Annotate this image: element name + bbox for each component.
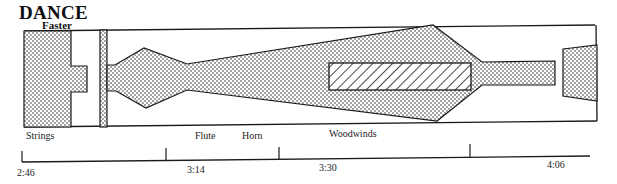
final-block: [563, 45, 597, 101]
woodwinds-block: [329, 63, 471, 90]
time-tick-label: 2:46: [17, 168, 35, 178]
divider-bar: [100, 30, 107, 127]
strings-block: [24, 31, 87, 127]
time-tick-label: 3:30: [319, 163, 337, 173]
instrument-label-woodwinds: Woodwinds: [329, 129, 377, 139]
music-form-diagram: [0, 0, 617, 184]
instrument-label-horn: Horn: [242, 131, 263, 141]
instrument-label-flute: Flute: [195, 131, 216, 141]
instrument-label-strings: Strings: [26, 131, 54, 141]
timeline-axis: [22, 144, 590, 162]
time-tick-label: 3:14: [187, 165, 205, 175]
time-tick-label: 4:06: [547, 160, 565, 170]
